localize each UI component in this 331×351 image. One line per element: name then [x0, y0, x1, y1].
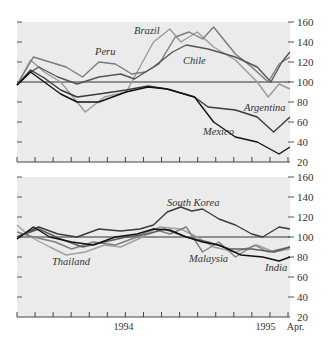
y-tick-label: 40 — [297, 291, 309, 303]
y-tick-label: 20 — [297, 156, 309, 168]
y-tick-label: 40 — [297, 136, 309, 148]
y-tick-label: 120 — [297, 211, 314, 223]
y-tick-label: 160 — [297, 171, 314, 183]
panel-asia: 20406080100120140160South KoreaThailandM… — [17, 171, 314, 332]
x-tick-label: Apr. — [287, 321, 305, 332]
series-label-chile: Chile — [183, 55, 206, 66]
y-tick-label: 120 — [297, 56, 314, 68]
series-label-argentina: Argentina — [243, 102, 286, 113]
y-tick-label: 140 — [297, 36, 314, 48]
y-tick-label: 100 — [297, 231, 314, 243]
series-label-india: India — [264, 262, 287, 273]
y-tick-label: 100 — [297, 76, 314, 88]
series-label-peru: Peru — [94, 46, 115, 57]
series-label-thailand: Thailand — [52, 256, 91, 267]
x-tick-label: 1995 — [255, 321, 275, 332]
panel-latin-america: 20406080100120140160BrazilPeruChileArgen… — [17, 16, 314, 168]
y-tick-label: 80 — [297, 251, 309, 263]
series-label-mexico: Mexico — [202, 126, 234, 137]
x-tick-label: 1994 — [113, 321, 133, 332]
y-tick-label: 140 — [297, 191, 314, 203]
series-label-brazil: Brazil — [134, 25, 160, 36]
y-tick-label: 60 — [297, 271, 309, 283]
series-label-south-korea: South Korea — [167, 197, 219, 208]
chart-figure: 20406080100120140160BrazilPeruChileArgen… — [0, 0, 331, 351]
y-tick-label: 80 — [297, 96, 309, 108]
y-tick-label: 60 — [297, 116, 309, 128]
y-tick-label: 160 — [297, 16, 314, 28]
series-label-malaysia: Malaysia — [188, 253, 228, 264]
